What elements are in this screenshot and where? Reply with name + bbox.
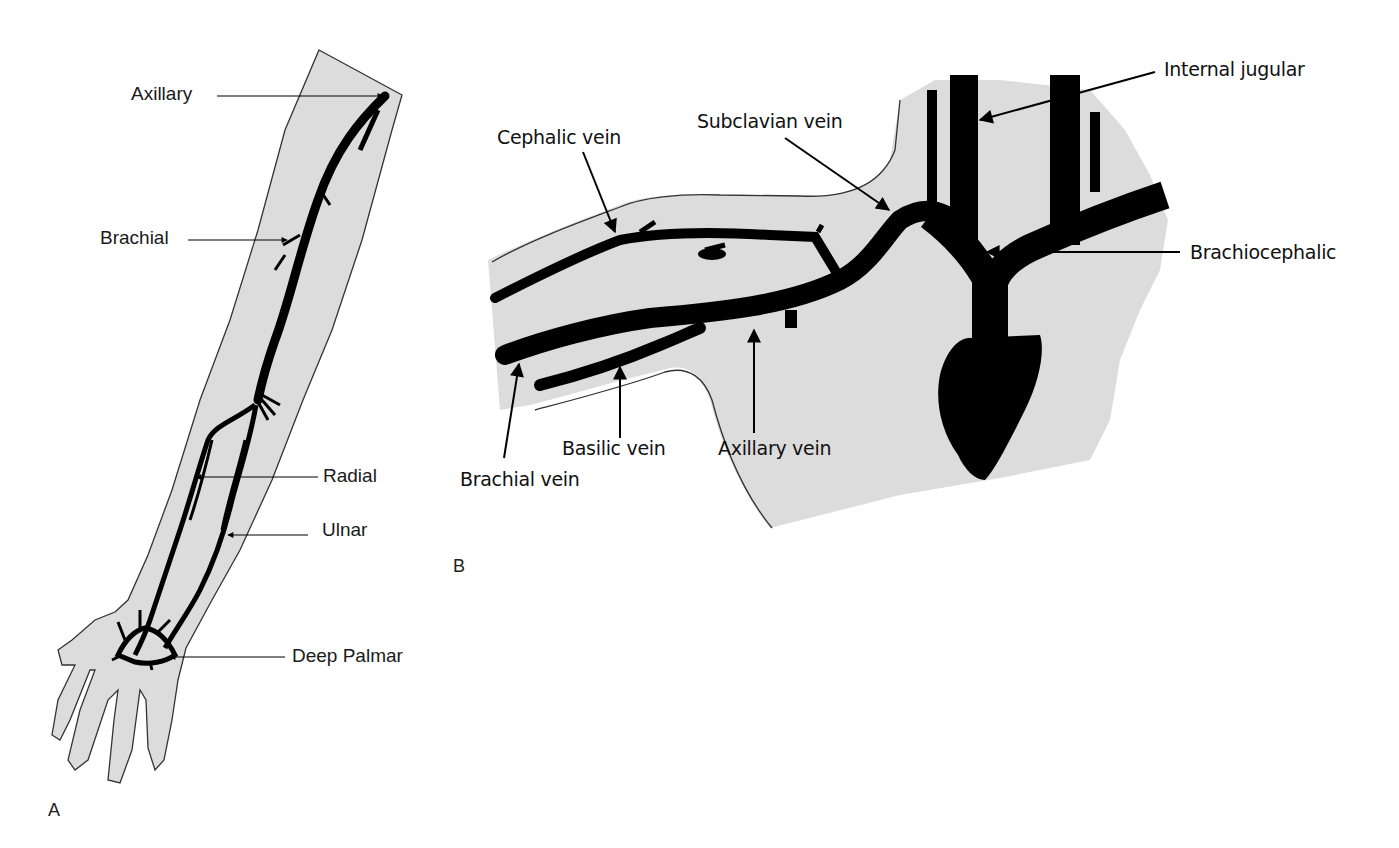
axillary-tributary	[785, 310, 797, 328]
panel-a-arm	[52, 50, 402, 783]
arm-silhouette	[52, 50, 402, 783]
label-axillary-vein: Axillary vein	[718, 439, 831, 458]
cephalic-tributary	[698, 248, 726, 260]
label-cephalic-vein: Cephalic vein	[497, 128, 621, 147]
label-brachial-vein: Brachial vein	[460, 470, 580, 489]
label-ulnar: Ulnar	[322, 520, 367, 539]
label-axillary: Axillary	[131, 84, 192, 103]
external-jugular-left	[1090, 112, 1100, 192]
label-brachial: Brachial	[100, 228, 169, 247]
label-subclavian-vein: Subclavian vein	[697, 112, 843, 131]
superior-vena-cava	[972, 270, 1008, 340]
panel-letter-b: B	[453, 556, 465, 577]
label-deep-palmar: Deep Palmar	[292, 646, 403, 665]
label-brachiocephalic: Brachiocephalic	[1190, 243, 1336, 262]
panel-letter-a: A	[48, 800, 60, 821]
label-basilic-vein: Basilic vein	[562, 439, 666, 458]
label-internal-jugular: Internal jugular	[1164, 60, 1305, 79]
label-radial: Radial	[323, 466, 377, 485]
